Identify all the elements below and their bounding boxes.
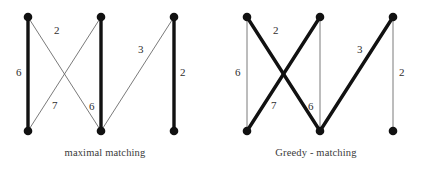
edge-weight-label-t3-b3: 2 (180, 67, 186, 78)
edge-weight-label-t1-b1: 6 (16, 67, 22, 78)
node-b1 (243, 127, 252, 136)
panel-maximal-matching: 6 2 7 6 3 2 maximal matching (0, 0, 210, 177)
node-t1 (24, 13, 33, 22)
edge-weight-label-t3-b2: 3 (138, 44, 144, 55)
node-b3 (389, 127, 398, 136)
edge-weight-label-t3-b3: 2 (399, 67, 405, 78)
node-t3 (389, 13, 398, 22)
node-t3 (170, 13, 179, 22)
edge-t3-b2 (320, 17, 393, 131)
edge-weight-label-t3-b2: 3 (357, 44, 363, 55)
matching-figure: 6 2 7 6 3 2 maximal matching (0, 0, 421, 177)
panel-greedy-matching: 6 2 7 6 3 2 Greedy - matching (211, 0, 421, 177)
node-b2 (316, 127, 325, 136)
edge-weight-label-t1-b1: 6 (235, 67, 241, 78)
edge-weight-label-t2-b2: 6 (308, 101, 314, 112)
edge-weight-label-t2-b1: 7 (271, 100, 277, 111)
graph-greedy-matching (211, 0, 421, 145)
edges-group (247, 17, 393, 131)
graph-maximal-matching (0, 0, 210, 145)
node-b1 (24, 127, 33, 136)
node-b2 (97, 127, 106, 136)
edge-weight-label-t2-b2: 6 (89, 101, 95, 112)
node-t2 (316, 13, 325, 22)
node-b3 (170, 127, 179, 136)
caption-greedy-matching: Greedy - matching (211, 147, 421, 158)
edge-weight-label-t1-b2: 2 (273, 25, 279, 36)
caption-maximal-matching: maximal matching (0, 147, 210, 158)
edges-group (28, 17, 174, 131)
node-t2 (97, 13, 106, 22)
edge-t3-b2 (101, 17, 174, 131)
edge-weight-label-t2-b1: 7 (52, 100, 58, 111)
node-t1 (243, 13, 252, 22)
edge-weight-label-t1-b2: 2 (54, 25, 60, 36)
